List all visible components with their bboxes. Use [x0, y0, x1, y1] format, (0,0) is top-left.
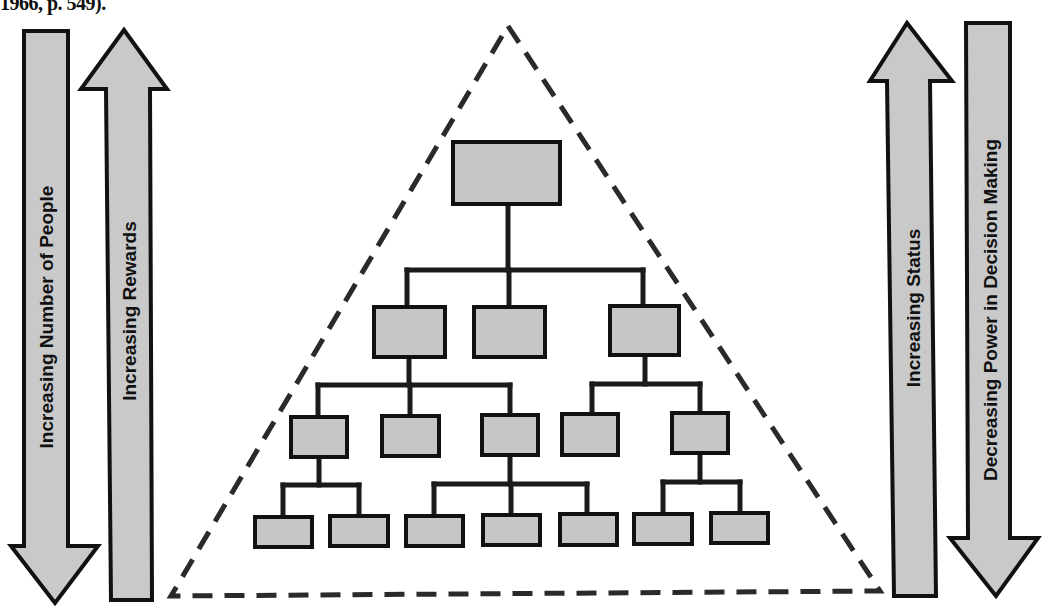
org-box-level1-top — [453, 142, 560, 204]
org-box-level3-1 — [291, 417, 347, 457]
org-box-level4-5 — [560, 514, 617, 545]
arrow-label-status: Increasing Status — [903, 229, 924, 387]
arrow-increasing-status: Increasing Status — [870, 23, 952, 596]
org-box-level2-1 — [374, 307, 445, 357]
org-box-level3-3 — [482, 415, 538, 455]
org-box-level3-2 — [382, 416, 439, 456]
org-box-level3-5 — [672, 413, 728, 453]
org-box-level3-4 — [562, 414, 618, 455]
arrow-label-people: Increasing Number of People — [36, 186, 57, 449]
org-chart-connectors — [283, 204, 740, 517]
organizational-pyramid-diagram: Increasing Number of People Increasing R… — [0, 0, 1048, 614]
org-box-level2-3 — [610, 306, 679, 355]
org-box-level4-4 — [483, 515, 540, 545]
arrow-label-rewards: Increasing Rewards — [119, 221, 140, 401]
arrow-increasing-rewards: Increasing Rewards — [81, 30, 167, 600]
org-box-level2-2 — [474, 307, 545, 357]
org-box-level4-1 — [255, 517, 312, 547]
arrow-label-power: Decreasing Power in Decision Making — [980, 139, 1001, 481]
arrow-decreasing-power: Decreasing Power in Decision Making — [950, 23, 1038, 596]
org-box-level4-7 — [711, 513, 768, 543]
org-box-level4-2 — [330, 516, 388, 546]
arrow-increasing-number-of-people: Increasing Number of People — [11, 31, 98, 603]
org-box-level4-3 — [406, 516, 463, 546]
org-box-level4-6 — [634, 514, 692, 544]
